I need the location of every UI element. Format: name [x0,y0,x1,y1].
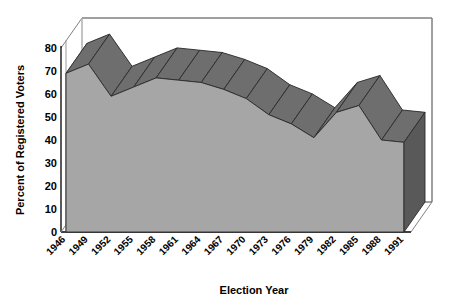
chart-container: 01020304050607080 1946194919521955195819… [0,0,454,303]
x-tick-label: 1979 [292,233,316,257]
x-tick-label: 1985 [337,233,361,257]
x-tick-label: 1949 [66,233,90,257]
x-tick-label: 1967 [202,233,226,257]
x-tick-label: 1964 [179,233,203,257]
y-tick-label: 80 [45,42,57,54]
area-chart-svg: 01020304050607080 1946194919521955195819… [0,0,454,303]
x-tick-label: 1973 [247,233,271,257]
x-tick-label: 1955 [112,233,136,257]
x-axis-title: Election Year [220,284,290,296]
y-tick-labels: 01020304050607080 [45,42,57,238]
y-tick-label: 70 [45,65,57,77]
x-tick-label: 1952 [89,233,113,257]
y-tick-label: 20 [45,180,57,192]
y-tick-label: 60 [45,88,57,100]
x-tick-label: 1991 [382,233,406,257]
x-tick-label: 1988 [359,233,383,257]
y-tick-label: 10 [45,203,57,215]
x-tick-label: 1970 [224,233,248,257]
x-tick-label: 1982 [314,233,338,257]
x-tick-labels: 1946194919521955195819611964196719701973… [44,233,406,257]
x-tick-label: 1961 [157,233,181,257]
y-tick-label: 40 [45,134,57,146]
x-tick-label: 1976 [269,233,293,257]
y-tick-label: 30 [45,157,57,169]
depth-edge-top [61,18,82,48]
y-tick-label: 50 [45,111,57,123]
x-tick-label: 1958 [134,233,158,257]
y-axis-title: Percent of Registered Voters [14,65,26,215]
x-tick-label: 1946 [44,233,68,257]
